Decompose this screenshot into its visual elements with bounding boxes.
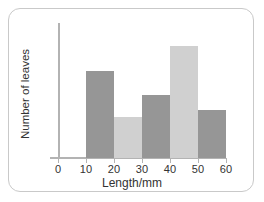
x-tick-label: 50 (185, 163, 211, 175)
x-tick-label: 0 (45, 163, 71, 175)
x-tick-label: 20 (101, 163, 127, 175)
bar (114, 117, 142, 158)
x-tick-label: 40 (157, 163, 183, 175)
x-tick-label: 60 (213, 163, 239, 175)
bar (198, 110, 226, 158)
x-tick-label: 10 (73, 163, 99, 175)
x-tick-label: 30 (129, 163, 155, 175)
histogram-plot: 0102030405060 Length/mm Number of leaves (0, 0, 264, 202)
bar (86, 71, 114, 158)
bar (170, 46, 198, 159)
y-axis-title: Number of leaves (19, 38, 31, 150)
bar (142, 95, 170, 158)
bar-series (58, 23, 226, 158)
x-axis-title: Length/mm (0, 176, 264, 190)
